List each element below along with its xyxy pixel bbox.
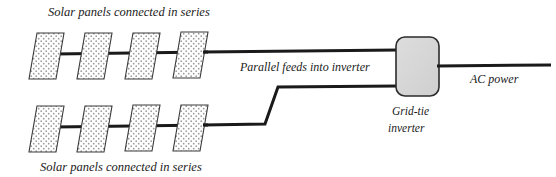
solar-grid-tie-diagram: Solar panels connected in series Solar p… — [0, 0, 556, 177]
bottom-feed-wire-path — [203, 86, 398, 125]
inverter-label-line1: Grid-tie — [392, 105, 429, 117]
solar-panel — [173, 32, 208, 78]
ac-power-label: AC power — [469, 72, 519, 86]
solar-panel — [29, 106, 64, 152]
solar-panel — [77, 33, 112, 79]
solar-panel — [125, 105, 160, 151]
solar-panel — [77, 106, 112, 152]
ac-output-wire-segment — [437, 65, 551, 66]
solar-panel — [29, 33, 64, 79]
parallel-feed-label: Parallel feeds into inverter — [239, 60, 370, 74]
top-solar-array — [29, 32, 208, 79]
solar-panel — [125, 33, 160, 79]
top-array-label: Solar panels connected in series — [48, 5, 210, 19]
top-feed-wire — [203, 50, 398, 52]
inverter-label-line2: inverter — [388, 122, 425, 134]
grid-tie-inverter — [396, 37, 439, 96]
inverter-body — [396, 37, 439, 96]
diagram-canvas: Solar panels connected in series Solar p… — [0, 0, 556, 177]
bottom-solar-array — [29, 105, 208, 152]
top-feed-wire-segment — [203, 50, 398, 52]
solar-panel — [173, 105, 208, 151]
bottom-feed-wire — [203, 86, 398, 125]
bottom-array-label: Solar panels connected in series — [40, 160, 202, 174]
ac-output-wire — [437, 65, 551, 66]
